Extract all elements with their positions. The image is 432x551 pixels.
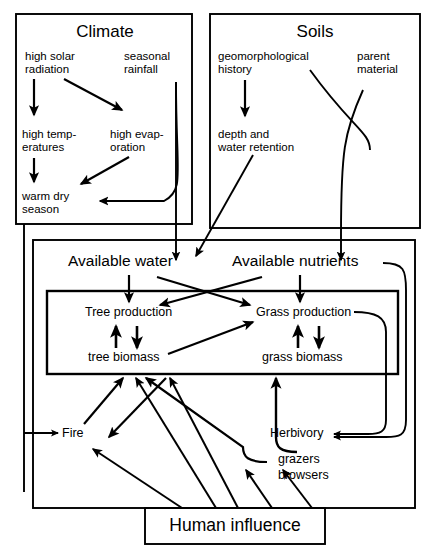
arrow-treebiomass-to-grassproduction (168, 322, 253, 354)
node-available-nutrients: Available nutrients (232, 252, 358, 269)
node-depth-water-retention: depth and water retention (218, 128, 294, 154)
node-geomorphological-history: geomorphological history (218, 50, 309, 76)
arrow-human-to-grazers (246, 470, 272, 508)
node-fire: Fire (62, 426, 84, 440)
arrow-evaporation-to-warmdry (81, 157, 129, 184)
node-warm-dry-season: warm dry season (22, 190, 69, 216)
node-human-influence: Human influence (145, 516, 325, 536)
arrow-treebiomass-to-fire (109, 378, 166, 437)
node-herbivory: Herbivory (270, 426, 324, 440)
arrow-parent-to-availablenutrients (341, 90, 363, 260)
node-high-solar-radiation: high solar radiation (25, 50, 75, 76)
arrow-fire-to-treebiomass (84, 378, 123, 424)
node-browsers: browsers (278, 468, 329, 482)
node-tree-production: Tree production (85, 305, 172, 319)
node-grazers: grazers (278, 452, 320, 466)
node-grass-biomass: grass biomass (262, 350, 343, 364)
savanna-system-diagram: Climate Soils high solar radiation seaso… (0, 0, 432, 551)
line-geomorph-curve-to-parent (310, 70, 370, 150)
soils-box (210, 14, 420, 228)
node-high-temperatures: high temp- eratures (22, 128, 76, 154)
curve-nutrients-to-herbivory (334, 263, 406, 437)
arrow-solar-to-evaporation (64, 79, 122, 110)
node-parent-material: parent material (357, 50, 398, 76)
soils-title: Soils (272, 22, 358, 41)
node-tree-biomass: tree biomass (88, 350, 160, 364)
node-high-evaporation: high evap- oration (110, 128, 164, 154)
curve-herbivory-to-grassbiomass (276, 378, 297, 452)
climate-title: Climate (62, 22, 148, 41)
node-seasonal-rainfall: seasonal rainfall (124, 50, 170, 76)
diagram-connectors-layer (0, 0, 432, 551)
node-available-water: Available water (68, 252, 173, 269)
arrow-human-to-fire (93, 449, 182, 508)
node-grass-production: Grass production (256, 305, 351, 319)
